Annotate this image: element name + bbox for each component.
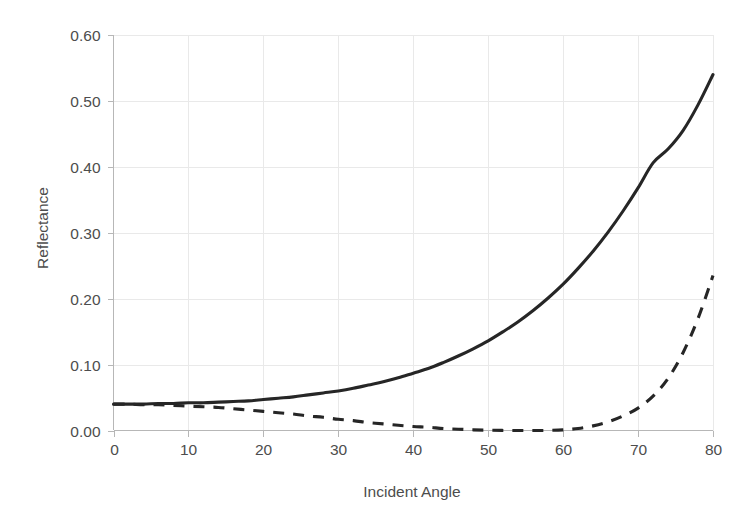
x-tick-label: 70 <box>630 441 648 458</box>
y-axis-tick-labels: 0.000.100.200.300.400.500.60 <box>70 27 101 440</box>
x-tick-label: 80 <box>705 441 723 458</box>
y-tick-label: 0.50 <box>70 93 101 110</box>
chart-canvas: 0.000.100.200.300.400.500.60 01020304050… <box>0 0 753 521</box>
y-tick-label: 0.20 <box>70 291 101 308</box>
x-tick-label: 60 <box>555 441 573 458</box>
x-tick-label: 10 <box>180 441 198 458</box>
y-tick-label: 0.40 <box>70 159 101 176</box>
x-axis-tick-labels: 01020304050607080 <box>110 441 722 458</box>
x-tick-label: 40 <box>405 441 423 458</box>
x-tick-label: 30 <box>330 441 348 458</box>
y-tick-label: 0.10 <box>70 357 101 374</box>
reflectance-chart-figure: 0.000.100.200.300.400.500.60 01020304050… <box>0 0 753 521</box>
x-axis-tick-marks <box>115 431 714 437</box>
x-tick-label: 0 <box>110 441 119 458</box>
y-tick-label: 0.00 <box>70 423 101 440</box>
y-tick-label: 0.30 <box>70 225 101 242</box>
x-tick-label: 50 <box>480 441 498 458</box>
y-axis-tick-marks <box>108 36 114 432</box>
y-axis-title: Reflectance <box>34 187 51 269</box>
x-axis-title: Incident Angle <box>363 483 460 500</box>
x-tick-label: 20 <box>255 441 273 458</box>
y-tick-label: 0.60 <box>70 27 101 44</box>
vertical-gridlines <box>189 35 714 431</box>
